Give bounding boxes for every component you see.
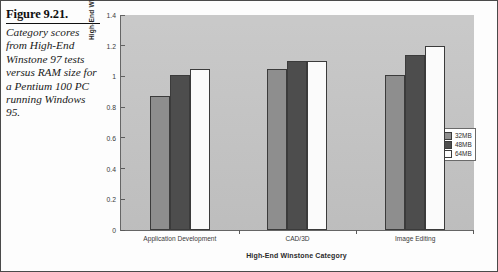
y-axis-tick-label: 1.4 — [107, 12, 121, 19]
legend-label: 64MB — [455, 150, 472, 157]
bar-48MB-Application Development — [170, 75, 190, 230]
y-axis-tick-label: 0.8 — [107, 104, 121, 111]
legend-label: 48MB — [455, 141, 472, 148]
plot-area: 00.20.40.60.811.21.4Application Developm… — [120, 15, 474, 231]
chart-legend: 32MB48MB64MB — [441, 128, 476, 161]
figure-caption-body: Category scores from High-End Winstone 9… — [6, 26, 100, 120]
bar-64MB-Image Editing — [425, 46, 445, 230]
y-axis-tick-label: 0.2 — [107, 196, 121, 203]
x-axis-tick-mark — [473, 230, 474, 234]
x-axis-tick-label: CAD/3D — [285, 235, 309, 242]
bar-chart: High-End Winstone Category Score 00.20.4… — [89, 9, 493, 265]
figure-caption: Figure 9.21. Category scores from High-E… — [6, 7, 100, 120]
legend-item-48MB[interactable]: 48MB — [444, 140, 472, 149]
y-axis-tick-label: 0.6 — [107, 134, 121, 141]
figure-caption-title: Figure 9.21. — [6, 7, 100, 24]
y-axis-tick-label: 0 — [112, 227, 121, 234]
legend-swatch-icon — [444, 141, 452, 149]
legend-item-32MB[interactable]: 32MB — [444, 131, 472, 140]
x-axis-tick-mark — [356, 230, 357, 234]
legend-swatch-icon — [444, 150, 452, 158]
bar-group — [356, 15, 474, 230]
legend-item-64MB[interactable]: 64MB — [444, 149, 472, 158]
bar-48MB-CAD/3D — [287, 61, 307, 230]
bar-48MB-Image Editing — [405, 55, 425, 230]
legend-label: 32MB — [455, 132, 472, 139]
y-axis-tick-label: 1.2 — [107, 42, 121, 49]
x-axis-tick-label: Image Editing — [395, 235, 435, 242]
x-axis-tick-mark — [239, 230, 240, 234]
y-axis-tick-label: 0.4 — [107, 165, 121, 172]
bar-group — [239, 15, 357, 230]
bar-64MB-Application Development — [190, 69, 210, 230]
x-axis-tick-label: Application Development — [143, 235, 216, 242]
bar-32MB-Application Development — [150, 96, 170, 230]
bar-group — [121, 15, 239, 230]
bar-32MB-Image Editing — [385, 75, 405, 230]
figure-container: Figure 9.21. Category scores from High-E… — [0, 0, 498, 272]
y-axis-tick-label: 1 — [112, 73, 121, 80]
legend-swatch-icon — [444, 132, 452, 140]
bar-32MB-CAD/3D — [267, 69, 287, 230]
y-axis-title: High-End Winstone Category Score — [88, 0, 95, 57]
x-axis-title: High-End Winstone Category — [120, 252, 473, 259]
bar-64MB-CAD/3D — [307, 61, 327, 230]
